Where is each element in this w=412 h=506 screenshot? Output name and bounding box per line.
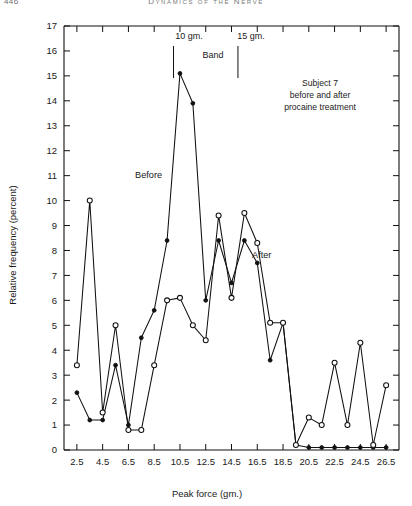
- data-point-after: [100, 410, 105, 415]
- y-tick-label: 1: [52, 419, 57, 430]
- x-tick-label: 16.5: [248, 456, 267, 467]
- x-tick-label: 14.5: [222, 456, 241, 467]
- data-point-before: [88, 418, 92, 422]
- x-tick-label: 8.5: [148, 456, 161, 467]
- data-point-before: [384, 446, 388, 450]
- data-point-before: [242, 239, 246, 243]
- data-point-after: [242, 211, 247, 216]
- data-point-before: [346, 446, 350, 450]
- x-tick-label: 2.5: [70, 456, 83, 467]
- data-point-after: [152, 363, 157, 368]
- x-tick-label: 10.5: [171, 456, 190, 467]
- caption-line-2: before and after: [290, 90, 351, 100]
- data-point-after: [113, 323, 118, 328]
- data-point-after: [268, 320, 273, 325]
- data-point-before: [358, 446, 362, 450]
- x-tick-label: 22.5: [325, 456, 344, 467]
- data-point-before: [75, 391, 79, 395]
- data-point-before: [255, 261, 259, 265]
- band-left-label: 10 gm.: [175, 31, 203, 41]
- data-point-after: [74, 363, 79, 368]
- x-tick-label: 26.5: [377, 456, 396, 467]
- data-point-before: [139, 336, 143, 340]
- x-tick-label: 24.5: [351, 456, 370, 467]
- y-tick-label: 3: [52, 370, 57, 381]
- data-point-after: [203, 338, 208, 343]
- data-point-before: [320, 446, 324, 450]
- data-point-after: [87, 198, 92, 203]
- y-tick-label: 17: [46, 20, 57, 31]
- data-point-after: [216, 213, 221, 218]
- y-axis-title: Relative frequency (percent): [7, 185, 18, 304]
- data-point-after: [358, 340, 363, 345]
- data-point-before: [217, 239, 221, 243]
- data-point-before: [101, 418, 105, 422]
- x-tick-label: 12.5: [196, 456, 215, 467]
- band-label: Band: [202, 50, 223, 60]
- data-point-after: [332, 360, 337, 365]
- y-tick-label: 11: [47, 170, 57, 181]
- x-tick-label: 18.5: [274, 456, 293, 467]
- data-point-before: [152, 308, 156, 312]
- y-tick-label: 4: [52, 345, 57, 356]
- data-point-before: [230, 281, 234, 285]
- series-line-after: [77, 201, 386, 445]
- y-tick-label: 7: [52, 270, 57, 281]
- data-point-before: [165, 239, 169, 243]
- y-tick-label: 9: [52, 220, 57, 231]
- band-right-label: 15 gm.: [237, 31, 265, 41]
- data-point-before: [268, 358, 272, 362]
- data-point-after: [165, 298, 170, 303]
- data-point-after: [319, 423, 324, 428]
- data-point-after: [177, 295, 182, 300]
- data-point-before: [333, 446, 337, 450]
- caption-line-3: procaine treatment: [284, 102, 356, 112]
- figure-page: 446 Dynamics of the Nerve 01234567891011…: [0, 0, 412, 506]
- data-point-after: [229, 295, 234, 300]
- data-point-after: [255, 240, 260, 245]
- data-point-after: [139, 428, 144, 433]
- data-point-after: [293, 443, 298, 448]
- data-point-after: [306, 415, 311, 420]
- data-point-before: [191, 101, 195, 105]
- x-axis-title: Peak force (gm.): [172, 488, 242, 499]
- y-tick-label: 16: [46, 45, 57, 56]
- y-tick-label: 12: [46, 145, 57, 156]
- y-tick-label: 15: [46, 70, 57, 81]
- y-tick-label: 10: [46, 195, 57, 206]
- y-tick-label: 5: [52, 320, 57, 331]
- chart-figure: 012345678910111213141516172.54.56.58.510…: [0, 0, 412, 506]
- y-tick-label: 2: [52, 395, 57, 406]
- data-point-after: [190, 323, 195, 328]
- x-tick-label: 6.5: [122, 456, 135, 467]
- series-label-after: After: [252, 250, 271, 260]
- data-point-after: [371, 443, 376, 448]
- series-label-before: Before: [135, 170, 162, 180]
- x-tick-label: 20.5: [300, 456, 319, 467]
- caption-line-1: Subject 7: [302, 78, 338, 88]
- y-tick-label: 8: [52, 245, 57, 256]
- data-point-after: [384, 383, 389, 388]
- data-point-before: [307, 446, 311, 450]
- data-point-after: [345, 423, 350, 428]
- y-tick-label: 14: [46, 95, 57, 106]
- y-tick-label: 13: [46, 120, 57, 131]
- chart-svg: 012345678910111213141516172.54.56.58.510…: [0, 0, 412, 506]
- data-point-before: [178, 71, 182, 75]
- y-tick-label: 6: [52, 295, 57, 306]
- x-tick-label: 4.5: [96, 456, 109, 467]
- data-point-before: [204, 298, 208, 302]
- y-tick-label: 0: [52, 444, 57, 455]
- data-point-after: [126, 428, 131, 433]
- data-point-before: [114, 363, 118, 367]
- data-point-after: [281, 320, 286, 325]
